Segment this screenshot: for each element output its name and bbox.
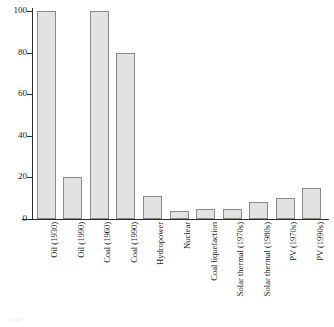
bar-chart-figure: 020406080100 Oil (1930)Oil (1990)Coal (1…	[0, 0, 334, 327]
x-axis-category-label: Oil (1930)	[50, 222, 59, 258]
caption-fragment: 1990	[8, 316, 22, 324]
y-axis-tick-label-text: 0	[3, 214, 27, 223]
bars-layer	[33, 11, 325, 219]
x-axis-category-label: Hydropower	[156, 222, 165, 265]
bar	[276, 198, 295, 219]
y-axis-tick-label: 40	[0, 131, 27, 140]
bar	[63, 177, 82, 219]
x-axis-category-label: PV (1970s)	[289, 222, 298, 261]
bar	[90, 11, 109, 219]
y-axis-tick-label: 80	[0, 48, 27, 57]
x-axis-line	[22, 219, 329, 220]
x-axis-category-label: Coal liquefaction	[210, 222, 219, 281]
y-axis-tick-mark	[27, 219, 33, 220]
x-axis-category-label: Solar thermal (1970s)	[236, 222, 245, 296]
y-axis-tick-label-text: 60	[3, 89, 27, 98]
bar	[116, 53, 135, 219]
bar	[223, 209, 242, 219]
x-axis-category-label: Coal (1960)	[103, 222, 112, 263]
y-axis-tick-label: 0	[0, 214, 27, 223]
y-axis-tick-label-text: 100	[3, 6, 27, 15]
x-axis-category-label: Nuclear	[183, 222, 192, 249]
x-axis-category-label: Solar thermal (1980s)	[263, 222, 272, 296]
x-axis-category-labels: Oil (1930)Oil (1990)Coal (1960)Coal (199…	[33, 222, 325, 322]
bar	[143, 196, 162, 219]
y-axis-tick-label: 100	[0, 6, 27, 15]
x-axis-category-label: Coal (1990)	[130, 222, 139, 263]
x-axis-category-label: PV (1990s)	[316, 222, 325, 261]
y-axis-tick-label: 20	[0, 172, 27, 181]
bar	[302, 188, 321, 219]
bar	[249, 202, 268, 219]
y-axis-tick-label-text: 80	[3, 48, 27, 57]
y-axis-tick-label-text: 20	[3, 172, 27, 181]
bar	[170, 211, 189, 219]
bar	[196, 209, 215, 219]
y-axis-tick-label-text: 40	[3, 131, 27, 140]
x-axis-category-label: Oil (1990)	[77, 222, 86, 258]
bar	[37, 11, 56, 219]
y-axis-tick-label: 60	[0, 89, 27, 98]
